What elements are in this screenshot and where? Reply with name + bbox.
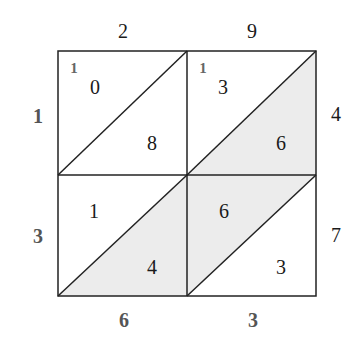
carry-digit: 1 [199,60,207,76]
cell-tens-digit: 0 [90,76,100,98]
carry-digit: 1 [70,60,78,76]
cell-ones-digit: 8 [147,132,157,154]
cell-tens-digit: 6 [219,200,229,222]
result-digit-bottom: 3 [248,309,258,331]
right-factor-digit: 7 [331,224,341,246]
lattice-multiplication-diagram: 2 9 4 7 1 3 6 3 1 0 8 1 3 6 1 4 6 3 [0,0,355,343]
cell-ones-digit: 6 [276,132,286,154]
right-factor-digit: 4 [331,103,341,125]
top-factor-digit: 2 [118,20,128,42]
cell-tens-digit: 1 [89,200,99,222]
result-digit-left: 1 [33,105,43,127]
cell-tens-digit: 3 [218,76,228,98]
result-digit-left: 3 [33,225,43,247]
result-digit-bottom: 6 [119,309,129,331]
cell-ones-digit: 3 [276,256,286,278]
cell-ones-digit: 4 [147,256,157,278]
top-factor-digit: 9 [247,20,257,42]
